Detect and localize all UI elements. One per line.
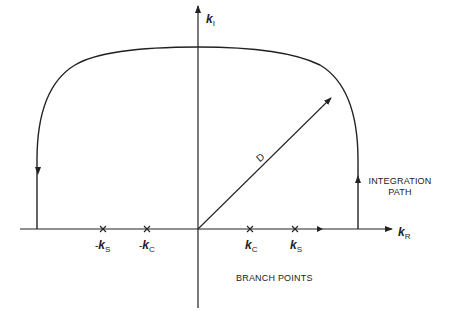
radius-vector-d [198,98,331,229]
k-symbol: k [398,225,405,239]
caption-line-1: INTEGRATION [364,177,436,186]
caption-line-2: PATH [364,188,436,197]
subscript-s: S [105,245,110,254]
path-direction-down-arrow-icon [35,167,41,175]
subscript-s: S [297,245,302,254]
subscript-c: C [149,245,155,254]
k-symbol: k [245,238,252,252]
imaginary-axis-label: kI [206,10,215,26]
subscript-c: C [252,245,258,254]
real-axis-label: kR [398,223,410,239]
branch-label-ks: kS [290,236,302,252]
branch-label-kc: kC [245,236,257,252]
k-symbol: k [206,12,213,26]
branch-label-neg-kc: -kC [139,236,155,252]
axis-direction-arrow-icon [317,226,323,232]
k-symbol: k [290,238,297,252]
path-direction-up-arrow-icon [355,175,361,183]
branch-label-neg-ks: -kS [95,236,110,252]
subscript-i: I [213,19,215,28]
subscript-r: R [405,232,411,241]
integration-path-caption: INTEGRATION PATH [364,177,436,197]
contour-diagram [0,0,451,323]
branch-points-caption: BRANCH POINTS [236,274,313,283]
